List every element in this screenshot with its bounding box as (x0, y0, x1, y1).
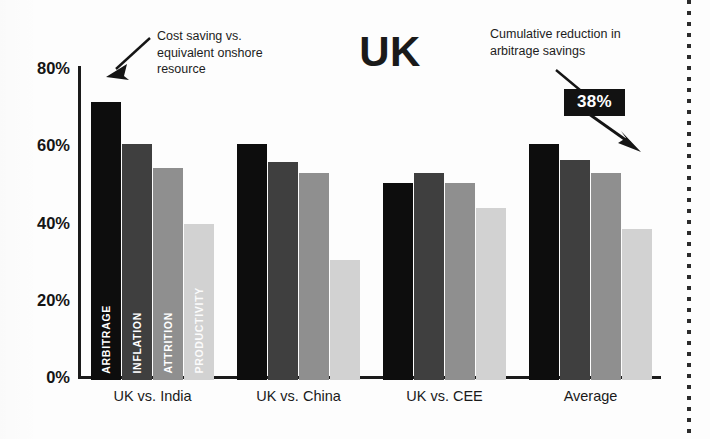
series-label-arbitrage: ARBITRAGE (100, 305, 112, 374)
bar-inflation-average (560, 160, 590, 380)
series-label-productivity: PRODUCTIVITY (193, 287, 205, 374)
bar-group (237, 69, 360, 380)
bar-attrition-uk-vs-india: ATTRITION (153, 168, 183, 380)
bar-attrition-uk-vs-china (299, 173, 329, 380)
bar-inflation-uk-vs-china (268, 162, 298, 380)
series-label-attrition: ATTRITION (162, 312, 174, 374)
y-axis-tick-label: 0% (8, 368, 70, 387)
series-label-inflation: INFLATION (131, 312, 143, 374)
bar-arbitrage-uk-vs-cee (383, 183, 413, 380)
y-axis-tick-label: 80% (8, 59, 70, 78)
bar-group (383, 69, 506, 380)
bar-inflation-uk-vs-cee (414, 173, 444, 380)
plot-area: ARBITRAGEINFLATIONATTRITIONPRODUCTIVITY (78, 66, 668, 380)
bar-productivity-uk-vs-china (330, 260, 360, 380)
series-label-holder: PRODUCTIVITY (193, 254, 205, 374)
bar-arbitrage-average (529, 144, 559, 380)
bar-productivity-uk-vs-cee (476, 208, 506, 380)
series-label-holder: ATTRITION (162, 254, 174, 374)
bar-arbitrage-uk-vs-china (237, 144, 267, 380)
bar-group: ARBITRAGEINFLATIONATTRITIONPRODUCTIVITY (91, 69, 214, 380)
annotation-cumulative-reduction: Cumulative reduction in arbitrage saving… (490, 26, 670, 59)
category-label-average: Average (499, 388, 682, 404)
y-axis-tick-label: 60% (8, 136, 70, 155)
series-label-holder: ARBITRAGE (100, 254, 112, 374)
bar-attrition-uk-vs-cee (445, 183, 475, 380)
series-label-holder: INFLATION (131, 254, 143, 374)
bar-productivity-average (622, 229, 652, 380)
bar-arbitrage-uk-vs-india: ARBITRAGE (91, 102, 121, 380)
y-axis-tick-label: 40% (8, 213, 70, 232)
bar-attrition-average (591, 173, 621, 380)
bar-inflation-uk-vs-india: INFLATION (122, 144, 152, 380)
y-axis-tick-label: 20% (8, 290, 70, 309)
scan-dotted-edge (687, 0, 691, 439)
chart-page: UK Cost saving vs. equivalent onshore re… (0, 0, 710, 439)
bar-productivity-uk-vs-india: PRODUCTIVITY (184, 224, 214, 380)
bar-group (529, 69, 652, 380)
